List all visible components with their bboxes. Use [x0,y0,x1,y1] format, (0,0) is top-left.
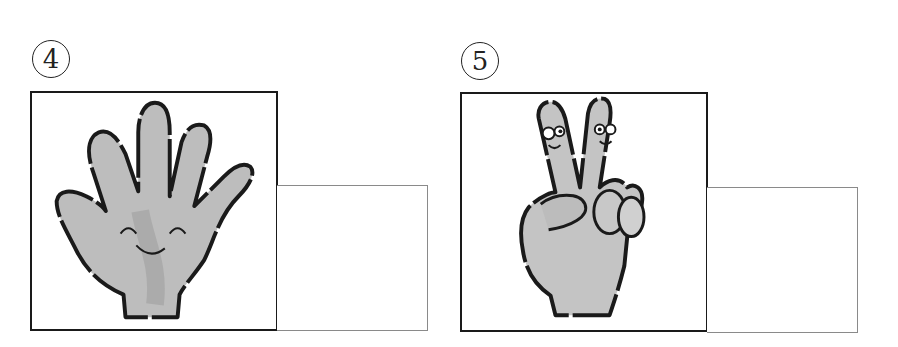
answer-box[interactable] [277,185,428,331]
item-number: 4 [43,46,60,72]
answer-box[interactable] [707,187,858,333]
picture-frame [460,92,708,332]
picture-frame [30,91,278,331]
peace-sign-hand-icon [462,94,706,330]
item-number-label: 5 [461,42,499,80]
item-number-label: 4 [32,40,70,78]
open-hand-icon [32,93,276,329]
item-number: 5 [472,48,489,74]
